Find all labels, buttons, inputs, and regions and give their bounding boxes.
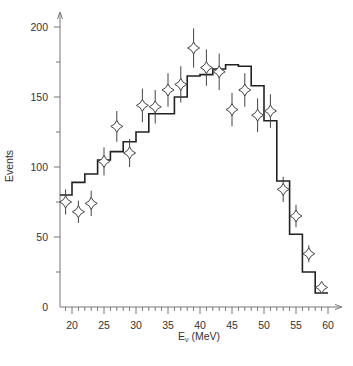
star-marker-icon xyxy=(136,99,148,111)
star-marker-icon xyxy=(226,104,238,116)
star-marker-icon xyxy=(111,120,123,132)
data-point xyxy=(149,90,161,124)
star-marker-icon xyxy=(277,183,289,195)
data-point xyxy=(72,201,84,223)
y-tick-label: 0 xyxy=(42,301,48,313)
data-point xyxy=(200,49,212,85)
x-tick-label: 35 xyxy=(162,319,174,331)
data-point xyxy=(213,54,225,90)
x-axis-label-main: E xyxy=(178,330,185,342)
data-point xyxy=(111,111,123,142)
star-marker-icon xyxy=(85,197,97,209)
star-marker-icon xyxy=(239,84,251,96)
x-axis-ticks: 202530354045505560 xyxy=(66,307,334,331)
star-marker-icon xyxy=(252,109,264,121)
data-point xyxy=(239,73,251,107)
x-tick-label: 55 xyxy=(290,319,302,331)
chart: 050100150200 202530354045505560 Events E… xyxy=(0,0,353,366)
star-marker-icon xyxy=(213,66,225,78)
star-marker-icon xyxy=(162,84,174,96)
data-point xyxy=(316,281,328,293)
star-marker-icon xyxy=(188,42,200,54)
data-point xyxy=(252,98,264,132)
data-point xyxy=(226,93,238,127)
data-point xyxy=(264,94,276,128)
data-point xyxy=(60,189,72,214)
star-marker-icon xyxy=(303,248,315,260)
y-tick-label: 150 xyxy=(30,91,48,103)
star-marker-icon xyxy=(124,147,136,159)
star-marker-icon xyxy=(98,155,110,167)
data-point xyxy=(98,147,110,175)
data-point xyxy=(303,245,315,262)
x-tick-label: 50 xyxy=(258,319,270,331)
star-marker-icon xyxy=(175,78,187,90)
star-marker-icon xyxy=(290,210,302,222)
x-tick-label: 45 xyxy=(226,319,238,331)
y-tick-label: 200 xyxy=(30,21,48,33)
data-point xyxy=(124,139,136,167)
data-point xyxy=(136,89,148,123)
data-point xyxy=(162,73,174,107)
data-point xyxy=(188,28,200,67)
x-axis-label-unit: (MeV) xyxy=(189,330,221,342)
x-tick-label: 60 xyxy=(322,319,334,331)
data-point xyxy=(290,205,302,227)
star-marker-icon xyxy=(72,206,84,218)
histogram-step-line xyxy=(60,65,328,293)
x-tick-label: 20 xyxy=(66,319,78,331)
star-marker-icon xyxy=(60,196,72,208)
x-tick-label: 25 xyxy=(98,319,110,331)
x-tick-label: 30 xyxy=(130,319,142,331)
data-points xyxy=(60,28,328,293)
star-marker-icon xyxy=(264,105,276,117)
star-marker-icon xyxy=(200,62,212,74)
y-axis-label: Events xyxy=(3,150,15,182)
x-axis-label: Eν (MeV) xyxy=(178,330,220,343)
star-marker-icon xyxy=(316,281,328,293)
y-axis-ticks: 050100150200 xyxy=(30,21,60,313)
prediction-histogram xyxy=(60,65,328,293)
y-tick-label: 50 xyxy=(36,231,48,243)
y-tick-label: 100 xyxy=(30,161,48,173)
data-point xyxy=(85,191,97,216)
star-marker-icon xyxy=(149,101,161,113)
